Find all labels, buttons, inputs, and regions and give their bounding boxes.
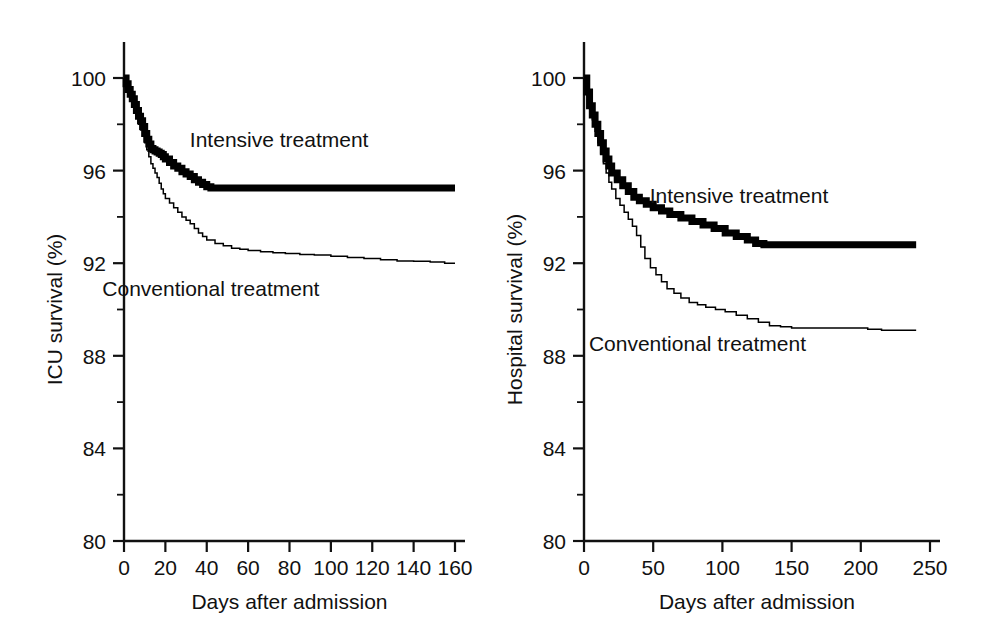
y-tick-label-96: 96 xyxy=(543,160,566,183)
y-tick-label-88: 88 xyxy=(83,345,106,368)
x-tick-label-140: 140 xyxy=(396,556,431,579)
x-tick-label-60: 60 xyxy=(236,556,259,579)
x-tick-label-40: 40 xyxy=(195,556,218,579)
y-tick-label-92: 92 xyxy=(543,252,566,275)
x-tick-label-160: 160 xyxy=(437,556,472,579)
y-tick-label-80: 80 xyxy=(83,530,106,553)
x-axis-title-right: Days after admission xyxy=(659,590,855,613)
y-tick-label-100: 100 xyxy=(71,67,106,90)
y-tick-label-88: 88 xyxy=(543,345,566,368)
x-tick-label-50: 50 xyxy=(642,556,665,579)
series-label-conventional-left: Conventional treatment xyxy=(102,277,319,300)
y-axis-title-right: Hospital survival (%) xyxy=(503,214,526,405)
survival-figure: 8084889296100020406080100120140160Days a… xyxy=(0,0,992,641)
x-tick-label-0: 0 xyxy=(118,556,130,579)
y-tick-label-80: 80 xyxy=(543,530,566,553)
curve-intensive-right xyxy=(584,78,916,245)
survival-chart-canvas: 8084889296100020406080100120140160Days a… xyxy=(0,0,992,641)
x-tick-label-100: 100 xyxy=(705,556,740,579)
series-label-conventional-right: Conventional treatment xyxy=(589,332,806,355)
x-tick-label-0: 0 xyxy=(578,556,590,579)
x-tick-label-100: 100 xyxy=(313,556,348,579)
y-tick-label-96: 96 xyxy=(83,160,106,183)
y-tick-label-92: 92 xyxy=(83,252,106,275)
x-axis-title-left: Days after admission xyxy=(191,590,387,613)
y-tick-label-84: 84 xyxy=(543,437,567,460)
y-tick-label-84: 84 xyxy=(83,437,107,460)
y-axis-title-left: ICU survival (%) xyxy=(43,234,66,386)
x-tick-label-120: 120 xyxy=(355,556,390,579)
x-tick-label-200: 200 xyxy=(843,556,878,579)
series-label-intensive-right: Intensive treatment xyxy=(650,184,829,207)
x-tick-label-80: 80 xyxy=(278,556,301,579)
x-tick-label-150: 150 xyxy=(774,556,809,579)
series-label-intensive-left: Intensive treatment xyxy=(190,128,369,151)
curve-conventional-left xyxy=(124,78,455,263)
panel-left: 8084889296100020406080100120140160Days a… xyxy=(43,42,473,613)
y-tick-label-100: 100 xyxy=(531,67,566,90)
panel-right: 8084889296100050100150200250Days after a… xyxy=(503,42,948,613)
x-tick-label-20: 20 xyxy=(154,556,177,579)
x-tick-label-250: 250 xyxy=(912,556,947,579)
